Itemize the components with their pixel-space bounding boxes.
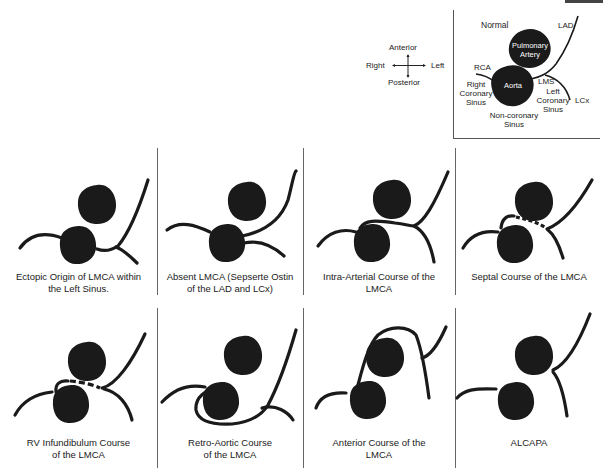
caption-intra-arterial: Intra-Arterial Course of the LMCA bbox=[303, 271, 455, 295]
caption-alcapa: ALCAPA bbox=[455, 437, 603, 449]
caption-absent: Absent LMCA (Sepserte Ostin of the LAD a… bbox=[157, 271, 303, 295]
panel-septal-drawing bbox=[463, 180, 592, 263]
panel-rv-infundibulum-drawing bbox=[15, 334, 145, 423]
panel-anterior-drawing bbox=[316, 327, 446, 419]
panel-drawings bbox=[0, 0, 603, 473]
panel-intra-arterial-drawing bbox=[318, 172, 448, 262]
caption-septal: Septal Course of the LMCA bbox=[455, 271, 603, 283]
caption-anterior: Anterior Course of the LMCA bbox=[303, 437, 455, 461]
caption-ectopic: Ectopic Origin of LMCA within the Left S… bbox=[0, 271, 157, 295]
panel-alcapa-drawing bbox=[457, 314, 590, 420]
panel-ectopic-drawing bbox=[20, 180, 148, 264]
panel-retro-aortic-drawing bbox=[162, 330, 296, 424]
caption-rv-infundibulum: RV Infundibulum Course of the LMCA bbox=[0, 437, 157, 461]
panel-absent-drawing bbox=[167, 171, 296, 262]
caption-retro-aortic: Retro-Aortic Course of the LMCA bbox=[157, 437, 303, 461]
